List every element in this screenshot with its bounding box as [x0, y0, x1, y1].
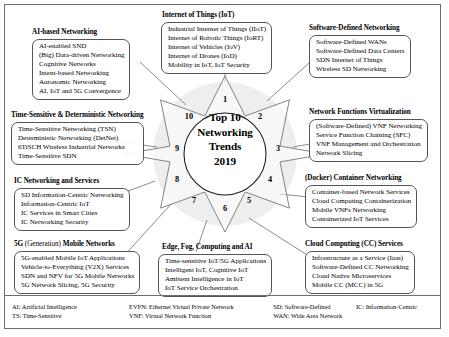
legend-abbr: AI: Artificial Intelligence [12, 302, 129, 311]
point-number-2: 2 [254, 113, 266, 121]
point-number-7: 7 [188, 197, 200, 205]
group-box-ai: AI-enabled SND (Big) Data-driven Network… [32, 39, 130, 100]
group-edge-fog-computing-ai: Edge, Fog, Computing and AI Time-sensiti… [158, 243, 272, 297]
legend-abbr: WAN: Wide Area Network [273, 311, 356, 320]
group-5g-mobile-networks: 5G (Generation) Mobile Networks 5G-enabl… [14, 240, 140, 294]
group-cloud-computing-services: Cloud Computing (CC) Services Infrastruc… [305, 240, 415, 294]
group-box-ts: Time-Sensitive Networking (TSN) Determin… [11, 122, 144, 165]
point-number-1: 1 [219, 96, 231, 104]
list-item: Information-Centric IoT [21, 200, 124, 209]
group-title-cloud: Cloud Computing (CC) Services [305, 240, 415, 249]
list-item: SDN Internet of Things [316, 56, 405, 65]
center-line-1: Top 10 [186, 110, 264, 125]
legend-abbr: IC: Information-Centric [356, 302, 437, 311]
group-box-iot: Industrial Internet of Things (IIoT) Int… [161, 22, 272, 74]
list-item: Container-based Network Services [312, 188, 411, 197]
list-item: VNF Management and Orchestration [316, 140, 422, 149]
list-item: SDN and NFV for 5G Mobile Networks [21, 272, 134, 281]
center-line-2: Networking [186, 125, 264, 140]
group-box-container: Container-based Network Services Cloud C… [305, 185, 417, 228]
legend-abbr [356, 311, 437, 320]
list-item: Cloud Computing Containerization [312, 197, 411, 206]
list-item: Software-Defined Data Centers [316, 47, 405, 56]
list-item: Intelligent IoT, Cognitive IoT [165, 266, 266, 275]
list-item: AI-enabled SND [39, 42, 124, 51]
group-title-nfv: Network Functions Virtualization [309, 108, 428, 117]
group-software-defined-networking: Software-Defined Networking Software-Def… [309, 24, 411, 78]
group-ic-networking-services: IC Networking and Services SD Informatio… [14, 177, 130, 231]
group-title-ic: IC Networking and Services [14, 177, 130, 186]
list-item: Containerized IoT Services [312, 215, 411, 224]
list-item: 5G-enabled Mobile IoT Applications [21, 254, 134, 263]
list-item: Industrial Internet of Things (IIoT) [168, 25, 266, 34]
group-title-5g: 5G (Generation) Mobile Networks [14, 240, 140, 249]
list-item: Mobile VNFs Networking [312, 206, 411, 215]
group-box-cloud: Infrastructure as a Service (Iaas) Softw… [305, 251, 415, 294]
point-number-4: 4 [264, 176, 276, 184]
group-title-ts: Time-Sensitive & Deterministic Networkin… [11, 111, 144, 120]
legend-abbr: VNF: Virtual Network Function [129, 311, 273, 320]
group-title-5g-suffix: Mobile Networks [63, 240, 115, 248]
list-item: (Big) Data-driven Networking [39, 51, 124, 60]
list-item: Mobility in IoT, IoT Security [168, 61, 266, 70]
group-title-iot: Internet of Things (IoT) [161, 11, 272, 20]
legend-row: AI: Artificial Intelligence EVPN: Ethern… [12, 302, 437, 311]
point-number-10: 10 [183, 113, 195, 121]
list-item: IC Networking Security [21, 218, 124, 227]
list-item: Deterministic Networking (DetNet) [18, 134, 138, 143]
list-item: Software-Defined CC Networking [312, 263, 409, 272]
legend-abbr: SD: Software-Defined [273, 302, 356, 311]
list-item: Software-Defined WANs [316, 38, 405, 47]
group-title-5g-regular: (Generation) [25, 240, 61, 248]
group-box-edge: Time-sensitive IoT/5G Applications Intel… [158, 254, 272, 297]
list-item: SD Information-Centric Networking [21, 191, 124, 200]
group-container-networking: (Docker) Container Networking Container-… [305, 174, 417, 228]
group-box-nfv: (Software-Defined) VNF Networking Servic… [309, 119, 428, 162]
list-item: Infrastructure as a Service (Iaas) [312, 254, 409, 263]
list-item: Time-sensitive IoT/5G Applications [165, 257, 266, 266]
list-item: Cloud Native Microservices [312, 272, 409, 281]
list-item: Mobile CC (MCC) in 5G [312, 281, 409, 290]
group-title-sdn: Software-Defined Networking [309, 24, 411, 33]
legend-abbr: TS: Time-Sensitive [12, 311, 129, 320]
legend-abbr: EVPN: Ethernet Virtual Private Network [129, 302, 273, 311]
list-item: Cognitive Networks [39, 60, 124, 69]
list-item: Internet of Vehicles (IoV) [168, 43, 266, 52]
figure-root: Top 10 Networking Trends 2019 1 2 3 4 5 … [0, 0, 449, 337]
list-item: Time-Sensitive SDN [18, 152, 138, 161]
list-item: AI, IoT and 5G Convergence [39, 87, 124, 96]
point-number-5: 5 [243, 197, 255, 205]
center-title: Top 10 Networking Trends 2019 [186, 110, 264, 168]
group-title-container: (Docker) Container Networking [305, 174, 417, 183]
group-ai-based-networking: AI-based Networking AI-enabled SND (Big)… [32, 28, 130, 100]
list-item: Internet of Drones (IoD) [168, 52, 266, 61]
list-item: 6TiSCH Wireless Industrial Networks [18, 143, 138, 152]
list-item: Vehicle-to-Everything (V2X) Services [21, 263, 134, 272]
group-title-edge: Edge, Fog, Computing and AI [158, 243, 272, 252]
point-number-3: 3 [272, 145, 284, 153]
point-number-8: 8 [171, 176, 183, 184]
list-item: Time-Sensitive Networking (TSN) [18, 125, 138, 134]
group-title-5g-prefix: 5G [14, 240, 23, 248]
list-item: 5G Network Slicing, 5G Security [21, 281, 134, 290]
list-item: Internet of Robotic Things (IoRT) [168, 34, 266, 43]
center-line-3: Trends [186, 139, 264, 154]
center-line-4: 2019 [186, 154, 264, 169]
list-item: Autonomic Networking [39, 78, 124, 87]
group-time-sensitive-deterministic-networking: Time-Sensitive & Deterministic Networkin… [11, 111, 144, 165]
legend: AI: Artificial Intelligence EVPN: Ethern… [12, 302, 437, 321]
group-box-sdn: Software-Defined WANs Software-Defined D… [309, 35, 411, 78]
list-item: (Software-Defined) VNF Networking [316, 122, 422, 131]
point-number-9: 9 [171, 145, 183, 153]
group-title-ai: AI-based Networking [32, 28, 130, 37]
point-number-6: 6 [219, 205, 231, 213]
group-box-5g: 5G-enabled Mobile IoT Applications Vehic… [14, 251, 140, 294]
list-item: Intent-based Networking [39, 69, 124, 78]
list-item: IoT Service Orchestration [165, 284, 266, 293]
legend-divider [5, 295, 440, 296]
group-network-functions-virtualization: Network Functions Virtualization (Softwa… [309, 108, 428, 162]
list-item: Ambient Intelligence in IoT [165, 275, 266, 284]
group-internet-of-things: Internet of Things (IoT) Industrial Inte… [161, 11, 272, 74]
list-item: IC Services in Smart Cities [21, 209, 124, 218]
list-item: Network Slicing [316, 149, 422, 158]
